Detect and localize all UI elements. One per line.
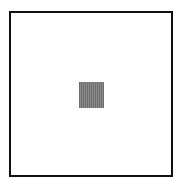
gray-square xyxy=(79,82,104,108)
